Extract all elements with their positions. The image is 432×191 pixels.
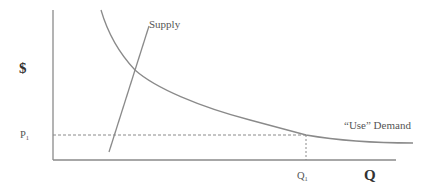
q1-label: Q1 (297, 170, 308, 182)
supply-line (109, 26, 149, 152)
y-axis-label: $ (19, 60, 27, 76)
p1-label: P1 (20, 129, 29, 141)
supply-demand-diagram: $ Q Supply “Use” Demand P1 Q1 (0, 0, 432, 191)
p1-label-sub: 1 (26, 134, 29, 141)
supply-label: Supply (149, 18, 181, 30)
demand-label: “Use” Demand (344, 119, 411, 131)
x-axis-label: Q (364, 167, 376, 183)
q1-label-sub: 1 (305, 175, 308, 182)
